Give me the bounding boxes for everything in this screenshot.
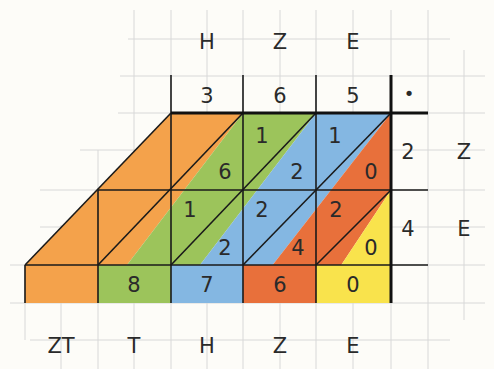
place-label-ones: E <box>346 32 359 53</box>
multiplicand-digit-hundreds: 3 <box>200 86 213 107</box>
cell-r1c1-bottom: 4 <box>291 238 304 259</box>
place-label-thousands: T <box>128 336 141 357</box>
place-label-ones-bottom: E <box>346 336 359 357</box>
place-label-hundreds: H <box>199 32 215 53</box>
cell-r0c0-bottom: 6 <box>218 162 231 183</box>
multiplier-digit-ones: 4 <box>401 219 414 240</box>
cell-r0c2-bottom: 0 <box>364 162 377 183</box>
cell-r1c2-top: 2 <box>329 200 342 221</box>
multiplicand-digit-ones: 5 <box>346 86 359 107</box>
place-label-ten-thousands: ZT <box>47 336 74 357</box>
place-label-hundreds-bottom: H <box>199 336 215 357</box>
cell-r1c2-bottom: 0 <box>364 238 377 259</box>
cell-r0c1-bottom: 2 <box>290 162 303 183</box>
place-label-tens: Z <box>273 32 287 53</box>
result-digit-thousands: 8 <box>127 275 140 296</box>
multiplier-label-tens: Z <box>457 142 471 163</box>
cell-r0c1-top: 1 <box>255 126 268 147</box>
cell-r1c0-bottom: 2 <box>218 238 231 259</box>
cell-r0c2-top: 1 <box>328 126 341 147</box>
lattice-diagram <box>0 0 494 369</box>
multiplicand-digit-tens: 6 <box>273 86 286 107</box>
multiplication-dot: • <box>404 85 415 103</box>
multiplier-digit-tens: 2 <box>401 142 414 163</box>
result-digit-ones: 0 <box>346 275 359 296</box>
cell-r1c0-top: 1 <box>183 200 196 221</box>
cell-r1c1-top: 2 <box>255 200 268 221</box>
place-label-tens-bottom: Z <box>273 336 287 357</box>
multiplier-label-ones: E <box>457 219 470 240</box>
result-digit-hundreds: 7 <box>200 275 213 296</box>
result-digit-tens: 6 <box>273 275 286 296</box>
